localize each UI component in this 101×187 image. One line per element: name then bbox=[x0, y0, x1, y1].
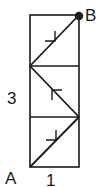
point-b-dot bbox=[75, 12, 83, 20]
label-width: 1 bbox=[46, 172, 55, 187]
label-height: 3 bbox=[7, 90, 16, 107]
path-diagram: A B 3 1 bbox=[0, 0, 101, 187]
path-segment-2 bbox=[30, 66, 79, 117]
label-point-a: A bbox=[5, 170, 16, 187]
arrow-icon bbox=[46, 130, 56, 140]
path-segment-1 bbox=[30, 117, 79, 167]
label-point-b: B bbox=[85, 7, 96, 24]
arrow-icon bbox=[45, 31, 55, 41]
